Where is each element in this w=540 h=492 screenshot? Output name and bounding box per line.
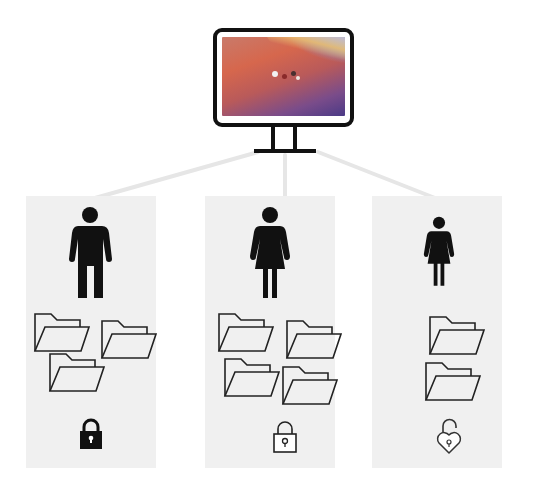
- folder-icon: [33, 311, 91, 355]
- user-panel-2: [205, 196, 335, 468]
- folder-icon: [217, 311, 275, 355]
- folder-icon: [100, 318, 158, 362]
- folder-icon: [223, 356, 281, 400]
- folder-icon: [281, 364, 339, 408]
- woman-icon: [245, 206, 295, 301]
- folder-icon: [285, 318, 343, 362]
- locked-padlock-filled-icon: [79, 418, 103, 450]
- folder-icon: [424, 360, 482, 404]
- monitor-stand-icon: [250, 126, 320, 156]
- unlocked-heart-padlock-icon: [435, 417, 463, 455]
- desktop-wallpaper: [222, 37, 345, 116]
- user-panel-1: [26, 196, 156, 468]
- man-icon: [66, 206, 116, 301]
- user-panel-3: [372, 196, 502, 468]
- folder-icon: [48, 351, 106, 395]
- computer-monitor: [212, 27, 355, 128]
- locked-padlock-outline-icon: [272, 420, 298, 454]
- folder-icon: [428, 314, 486, 358]
- woman-small-icon: [420, 216, 458, 288]
